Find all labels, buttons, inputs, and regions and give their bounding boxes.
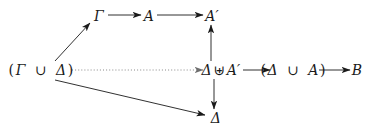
node-delta-union-a: (Δ ∪ A) [259,63,327,77]
node-gamma-union-delta: (Γ ∪ Δ) [7,63,75,77]
edge-union-to-gamma [55,23,90,61]
node-delta-bottom: Δ [211,111,221,125]
edge-union-to-delta-bottom [55,80,205,115]
node-a-prime-top: A′ [205,9,219,23]
node-a: A [144,9,154,23]
node-delta-uplus-a-prime: Δ⊎A′ [202,63,241,77]
commutative-diagram: (Γ ∪ Δ) Γ A A′ Δ⊎A′ (Δ ∪ A) B Δ [0,0,375,134]
node-b: B [352,63,363,77]
node-gamma: Γ [94,9,104,23]
